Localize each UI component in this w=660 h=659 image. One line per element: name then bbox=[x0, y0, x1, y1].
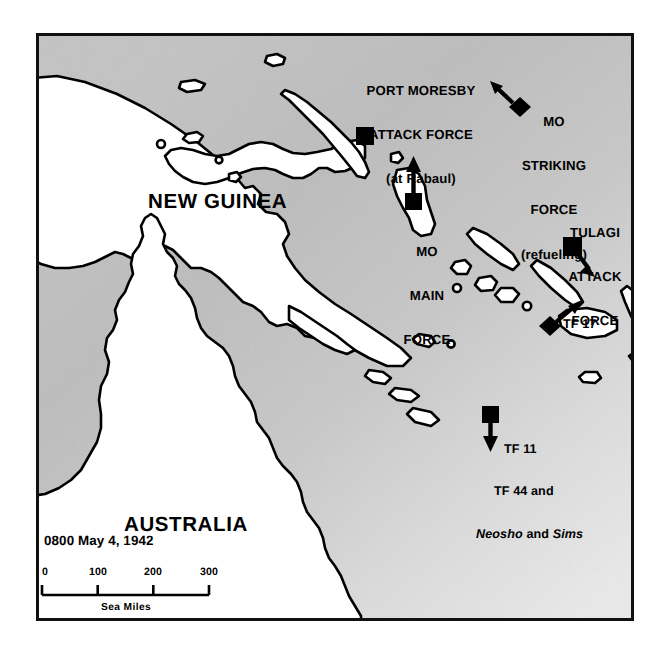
force-label-line: PORT MORESBY bbox=[367, 84, 476, 99]
scale-tick-label-100: 100 bbox=[89, 567, 107, 579]
tf-11-line-2: TF 44 and bbox=[476, 484, 583, 498]
tf-11-conjunction: and bbox=[523, 527, 553, 541]
task-force-label-tf-11-group: TF 11 TF 44 and Neosho and Sims bbox=[476, 414, 583, 569]
islet-a bbox=[157, 140, 165, 148]
islet-c bbox=[229, 172, 241, 182]
force-label-port-moresby-attack-force: PORT MORESBY ATTACK FORCE (at Rabaul) bbox=[367, 54, 476, 217]
ship-name-neosho: Neosho bbox=[476, 527, 523, 541]
force-label-line: MO bbox=[404, 245, 451, 260]
islet-b bbox=[216, 157, 223, 164]
ship-name-sims: Sims bbox=[553, 527, 584, 541]
force-label-line: STRIKING bbox=[521, 159, 587, 174]
region-label-new-guinea: NEW GUINEA bbox=[148, 191, 287, 214]
force-label-line: MO bbox=[521, 115, 587, 130]
island-new-georgia-2 bbox=[475, 276, 497, 291]
islet-russell-1 bbox=[453, 284, 461, 292]
island-tabar bbox=[265, 54, 285, 66]
map-datestamp: 0800 May 4, 1942 bbox=[44, 533, 154, 548]
islet-russell-2 bbox=[523, 302, 531, 310]
force-label-line: FORCE bbox=[404, 333, 451, 348]
scale-tick-label-0: 0 bbox=[42, 567, 48, 579]
map-frame: NEW GUINEA AUSTRALIA PORT MORESBY ATTACK… bbox=[36, 33, 634, 621]
island-witu bbox=[179, 80, 205, 92]
scale-tick-label-200: 200 bbox=[144, 567, 162, 579]
scale-tick-label-300: 300 bbox=[200, 567, 218, 579]
force-label-line: (at Rabaul) bbox=[367, 172, 476, 187]
force-label-line: ATTACK bbox=[568, 270, 621, 285]
map-figure: NEW GUINEA AUSTRALIA PORT MORESBY ATTACK… bbox=[0, 0, 660, 659]
island-new-georgia-1 bbox=[451, 260, 471, 274]
force-label-line: TULAGI bbox=[568, 226, 621, 241]
force-label-mo-main-force: MO MAIN FORCE bbox=[404, 215, 451, 378]
tf-11-line-1: TF 11 bbox=[476, 442, 583, 456]
task-force-label-tf-17: TF 17 bbox=[563, 317, 596, 331]
force-label-line: MAIN bbox=[404, 289, 451, 304]
islet-rennell bbox=[579, 372, 601, 383]
island-unea bbox=[183, 132, 203, 143]
force-label-tulagi-attack-force: TULAGI ATTACK FORCE bbox=[568, 196, 621, 359]
tf-11-line-3: Neosho and Sims bbox=[476, 527, 583, 541]
force-label-line: ATTACK FORCE bbox=[367, 128, 476, 143]
island-new-georgia-3 bbox=[495, 288, 519, 302]
scale-bar-caption: Sea Miles bbox=[101, 602, 151, 613]
